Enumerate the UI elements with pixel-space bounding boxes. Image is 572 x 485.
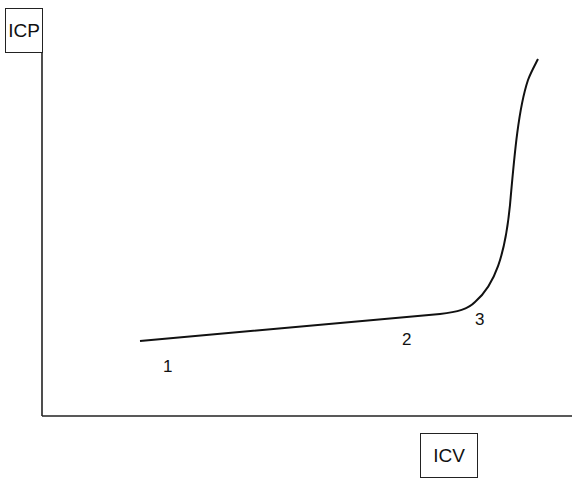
y-axis-label-box: ICP — [5, 8, 43, 53]
point-label-3: 3 — [475, 310, 484, 330]
x-axis-label-box: ICV — [420, 433, 478, 478]
x-axis-label: ICV — [433, 445, 465, 467]
pressure-volume-plot — [0, 0, 572, 485]
icp-curve — [140, 59, 538, 341]
y-axis-label: ICP — [8, 20, 40, 42]
point-label-2: 2 — [402, 330, 411, 350]
point-label-1: 1 — [163, 357, 172, 377]
